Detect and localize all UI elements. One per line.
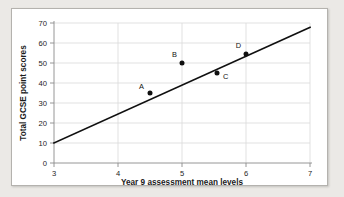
y-tick-label-20: 20 <box>39 119 47 128</box>
x-axis-title: Year 9 assessment mean levels <box>121 178 243 185</box>
y-tick-labels: 70 60 50 40 30 20 10 0 <box>39 19 47 168</box>
vertical-gridlines <box>118 23 310 163</box>
data-points <box>148 52 249 96</box>
x-tick-label-5: 5 <box>180 169 184 178</box>
x-tick-label-3: 3 <box>52 169 56 178</box>
y-axis-title: Total GCSE point scores <box>19 45 28 141</box>
data-point-label-b: B <box>172 50 177 59</box>
x-tick-label-7: 7 <box>308 169 312 178</box>
x-tick-label-6: 6 <box>244 169 248 178</box>
y-tick-label-70: 70 <box>39 19 47 28</box>
chart-card: 70 60 50 40 30 20 10 0 3 4 5 6 7 <box>11 8 328 186</box>
y-tick-label-0: 0 <box>43 159 47 168</box>
screenshot-root: 70 60 50 40 30 20 10 0 3 4 5 6 7 <box>0 0 344 197</box>
data-point-label-a: A <box>139 82 144 91</box>
x-tick-label-4: 4 <box>116 169 120 178</box>
y-tick-label-60: 60 <box>39 39 47 48</box>
data-point-a <box>148 91 153 96</box>
y-tick-label-10: 10 <box>39 139 47 148</box>
data-point-label-c: C <box>223 72 229 81</box>
y-tick-label-40: 40 <box>39 79 47 88</box>
x-tick-labels: 3 4 5 6 7 <box>52 169 312 178</box>
data-point-label-d: D <box>236 41 241 50</box>
y-tick-label-50: 50 <box>39 59 47 68</box>
y-tick-label-30: 30 <box>39 99 47 108</box>
data-point-c <box>215 71 220 76</box>
scatter-chart: 70 60 50 40 30 20 10 0 3 4 5 6 7 <box>12 9 327 185</box>
y-tick-marks <box>50 23 54 163</box>
data-point-b <box>180 61 185 66</box>
x-tick-marks <box>54 163 310 167</box>
data-point-d <box>244 52 249 57</box>
